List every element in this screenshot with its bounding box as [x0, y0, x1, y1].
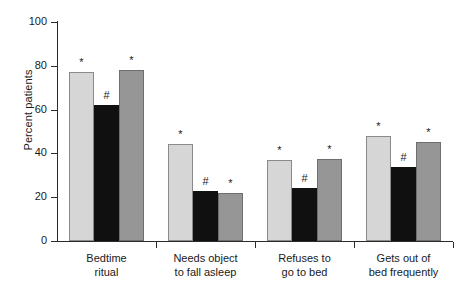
y-axis-tick-label: 100	[17, 16, 47, 27]
x-axis-category-label: Gets out of bed frequently	[354, 251, 453, 279]
significance-marker: #	[94, 90, 119, 101]
y-axis-tick-label: 40	[17, 147, 47, 158]
x-axis-tick	[453, 242, 454, 248]
y-axis-tick-label: 80	[17, 60, 47, 71]
bar	[292, 188, 317, 241]
y-axis-tick-label: 60	[17, 104, 47, 115]
bar	[119, 70, 144, 241]
plot-area: *#**#**#**#*	[57, 22, 453, 241]
significance-marker: *	[267, 145, 292, 156]
significance-marker: *	[168, 129, 193, 140]
bar	[416, 142, 441, 241]
bar	[168, 144, 193, 241]
bar	[391, 167, 416, 241]
x-axis-tick	[354, 242, 355, 248]
significance-marker: *	[119, 55, 144, 66]
bar	[193, 191, 218, 241]
y-axis-tick-label: 0	[17, 235, 47, 246]
significance-marker: *	[218, 178, 243, 189]
significance-marker: *	[366, 121, 391, 132]
significance-marker: *	[317, 144, 342, 155]
x-axis-category-label: Bedtime ritual	[57, 251, 156, 279]
bar	[218, 193, 243, 241]
significance-marker: *	[416, 127, 441, 138]
significance-marker: *	[69, 57, 94, 68]
x-axis-category-label: Refuses to go to bed	[255, 251, 354, 279]
x-axis-category-label: Needs object to fall asleep	[156, 251, 255, 279]
y-axis-tick	[51, 241, 57, 242]
bar-chart: Percent patients 020406080100 *#**#**#**…	[0, 0, 466, 290]
x-axis-tick	[255, 242, 256, 248]
bar	[317, 159, 342, 241]
significance-marker: #	[292, 173, 317, 184]
bar	[69, 72, 94, 241]
x-axis-tick	[156, 242, 157, 248]
significance-marker: #	[193, 176, 218, 187]
bar	[94, 105, 119, 241]
bar	[366, 136, 391, 241]
bar	[267, 160, 292, 241]
y-axis-tick-label: 20	[17, 191, 47, 202]
significance-marker: #	[391, 152, 416, 163]
